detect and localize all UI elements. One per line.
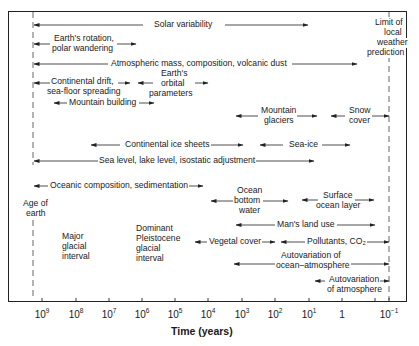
tick-label: 106 — [135, 307, 150, 320]
label-limit-prediction-4: prediction — [366, 48, 405, 58]
tick-label: 105 — [168, 307, 183, 320]
label-sea-level: Sea level, lake level, isostatic adjustm… — [98, 156, 256, 166]
label-atmospheric-mass: Atmospheric mass, composition, volcanic … — [110, 59, 288, 69]
label-mans-land-use: Man's land use — [276, 220, 336, 230]
label-surface-ocean-2: ocean layer — [315, 201, 361, 211]
label-autovariation-ocean-atmosphere-2: ocean–atmosphere — [275, 261, 351, 271]
label-pleistocene-4: interval — [135, 254, 165, 264]
label-major-glacial-3: interval — [61, 252, 91, 262]
label-continental-drift-2: sea-floor spreading — [46, 87, 122, 97]
tick-label: 10−1 — [380, 307, 399, 320]
label-ocean-bottom-3: water — [238, 206, 261, 216]
tick-label: 108 — [69, 307, 84, 320]
label-solar-variability: Solar variability — [153, 20, 213, 30]
tick-label: 109 — [35, 307, 50, 320]
tick-label: 102 — [268, 307, 283, 320]
label-age-of-earth-2: earth — [25, 209, 47, 219]
label-earth-rotation-2: polar wandering — [51, 44, 114, 54]
x-axis-label: Time (years) — [171, 325, 233, 337]
label-orbital-3: parameters — [148, 89, 193, 99]
tick-label: 101 — [302, 307, 317, 320]
label-sea-ice: Sea-ice — [288, 140, 319, 150]
label-oceanic-composition: Oceanic composition, sedimentation — [49, 181, 189, 191]
tick-label: 104 — [201, 307, 216, 320]
label-autovariation-atmosphere-2: of atmosphere — [326, 285, 383, 295]
tick-label: 1 — [339, 307, 345, 320]
tick-label: 103 — [235, 307, 250, 320]
label-mountain-building: Mountain building — [68, 98, 137, 108]
label-snow-cover-2: cover — [348, 116, 371, 126]
label-vegetal-cover: Vegetal cover — [208, 237, 262, 247]
label-continental-ice-sheets: Continental ice sheets — [124, 140, 211, 150]
axis-ticks — [42, 298, 389, 302]
label-pollutants-co2: Pollutants, CO₂ — [306, 237, 367, 247]
label-mountain-glaciers-2: glaciers — [263, 116, 295, 126]
tick-label: 107 — [102, 307, 117, 320]
